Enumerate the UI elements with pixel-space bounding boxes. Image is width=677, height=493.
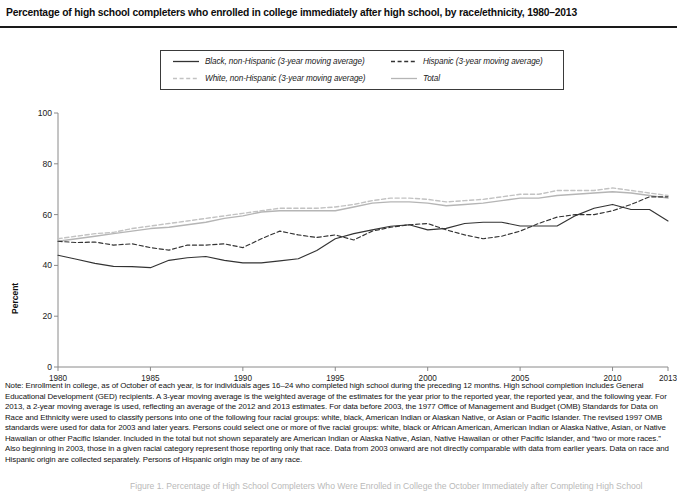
chart-legend: Black, non-Hispanic (3-year moving avera… — [160, 50, 564, 90]
legend-item: Black, non-Hispanic (3-year moving avera… — [173, 57, 391, 66]
title-divider — [0, 26, 677, 28]
figure-page: Percentage of high school completers who… — [0, 0, 677, 493]
series-line — [58, 192, 668, 242]
source-line-cutoff: Figure 1. Percentage of High School Comp… — [130, 481, 675, 492]
legend-item-label: Total — [423, 74, 440, 83]
page-title: Percentage of high school completers who… — [6, 7, 671, 18]
legend-item: Hispanic (3-year moving average) — [391, 57, 577, 66]
line-chart-canvas — [0, 96, 677, 381]
legend-line-swatch-icon — [173, 57, 199, 66]
legend-line-swatch-icon — [173, 74, 199, 83]
series-line — [58, 188, 668, 239]
plot-area: Percent 020406080100 1980198519901995200… — [0, 96, 677, 381]
legend-line-swatch-icon — [391, 57, 417, 66]
legend-item-label: White, non-Hispanic (3-year moving avera… — [205, 74, 365, 83]
figure-note: Note: Enrollment in college, as of Octob… — [5, 381, 673, 465]
legend-grid: Black, non-Hispanic (3-year moving avera… — [161, 51, 563, 89]
legend-item-label: Black, non-Hispanic (3-year moving avera… — [205, 57, 365, 66]
legend-item: White, non-Hispanic (3-year moving avera… — [173, 74, 391, 83]
legend-line-swatch-icon — [391, 74, 417, 83]
legend-item-label: Hispanic (3-year moving average) — [423, 57, 543, 66]
legend-item: Total — [391, 74, 577, 83]
